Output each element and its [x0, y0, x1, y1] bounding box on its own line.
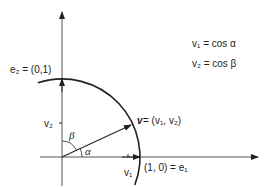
beta-label: β — [68, 129, 75, 141]
unit-circle-diagram: e₂ = (0,1) (1, 0) = e₁ v = (v₁, v₂) v₂ v… — [0, 0, 272, 187]
v2-tick-label: v₂ — [44, 118, 53, 129]
equation-v1: v₁ = cos α — [192, 38, 236, 49]
alpha-label: α — [85, 145, 91, 157]
e1-label: (1, 0) = e₁ — [144, 162, 188, 173]
alpha-arc — [80, 149, 82, 157]
beta-arc — [62, 141, 77, 150]
equation-v2: v₂ = cos β — [192, 58, 237, 69]
v-equation: = (v₁, v₂) — [143, 115, 181, 126]
e2-label: e₂ = (0,1) — [10, 64, 51, 75]
v1-tick-label: v₁ — [124, 167, 133, 178]
